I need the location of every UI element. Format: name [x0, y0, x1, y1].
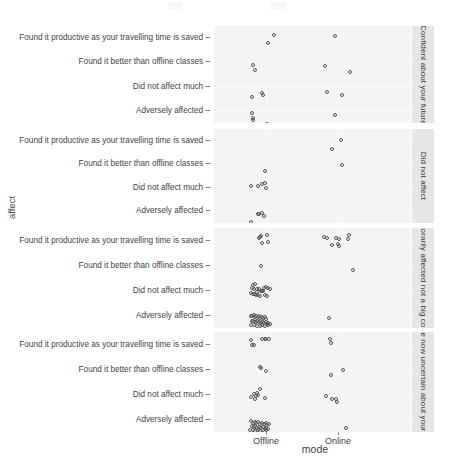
x-tick-mark-offline: [266, 432, 267, 435]
data-point: [249, 338, 253, 342]
data-point: [266, 323, 270, 327]
data-point: [351, 268, 355, 272]
y-tick-label-group: Found it productive as your travelling t…: [5, 129, 210, 223]
gridline-horizontal: [214, 87, 411, 88]
data-point: [348, 70, 352, 74]
data-point: [261, 93, 265, 97]
gridline-vertical: [338, 26, 339, 123]
data-point: [264, 369, 268, 373]
data-point: [250, 111, 254, 115]
data-point: [249, 220, 253, 223]
y-tick-label: Did not affect much –: [10, 390, 210, 399]
facet-panel: [214, 26, 411, 123]
gridline-horizontal: [214, 395, 411, 396]
y-tick-label: Did not affect much –: [10, 183, 210, 192]
y-tick-label: Found it productive as your travelling t…: [10, 340, 210, 349]
facet-strip-label: Did not affect: [412, 129, 434, 223]
data-point: [333, 113, 337, 117]
gridline-vertical: [338, 129, 339, 223]
y-tick-label: Found it better than offline classes –: [10, 261, 210, 270]
y-tick-label: Adversely affected –: [10, 311, 210, 320]
data-point: [259, 366, 263, 370]
data-point: [250, 95, 254, 99]
gridline-vertical: [266, 332, 267, 432]
title-remnant: [168, 2, 182, 9]
data-point: [325, 90, 329, 94]
y-tick-label: Found it productive as your travelling t…: [10, 136, 210, 145]
data-point: [253, 397, 257, 401]
y-tick-label-group: Found it productive as your travelling t…: [5, 228, 210, 328]
data-point: [272, 33, 276, 37]
gridline-horizontal: [214, 211, 411, 212]
data-point: [263, 169, 267, 173]
facet-strip-text: Did not affect: [419, 152, 428, 200]
y-tick-label: Found it better than offline classes –: [10, 159, 210, 168]
facet-panel: [214, 228, 411, 328]
gridline-horizontal: [214, 188, 411, 189]
data-point: [340, 93, 344, 97]
y-tick-label: Adversely affected –: [10, 206, 210, 215]
data-point: [330, 243, 334, 247]
gridline-horizontal: [214, 141, 411, 142]
plot-area: [214, 26, 411, 123]
data-point: [341, 368, 345, 372]
data-point: [253, 68, 257, 72]
data-point: [256, 393, 260, 397]
data-point: [252, 343, 256, 347]
y-tick-label-group: Found it productive as your travelling t…: [5, 26, 210, 123]
title-remnant: [270, 2, 286, 9]
y-tick-label-group: Found it productive as your travelling t…: [5, 332, 210, 432]
data-point: [266, 41, 270, 45]
gridline-horizontal: [214, 62, 411, 63]
gridline-horizontal: [214, 316, 411, 317]
data-point: [259, 234, 263, 238]
facet-panel: [214, 129, 411, 223]
facet-strip-text: Confident about your future: [419, 26, 428, 123]
y-tick-label: Did not affect much –: [10, 82, 210, 91]
gridline-horizontal: [214, 164, 411, 165]
facet-panel: [214, 332, 411, 432]
data-point: [260, 241, 264, 245]
y-tick-label: Adversely affected –: [10, 106, 210, 115]
facet-scatter-chart: affect mode Found it productive as your …: [0, 0, 449, 465]
facet-strip-label: Confident about your future: [412, 26, 434, 123]
data-point: [265, 122, 269, 123]
data-point: [251, 118, 255, 122]
data-point: [335, 400, 339, 404]
data-point: [344, 426, 348, 430]
facet-strip-text: orarily affected not a big co: [419, 229, 428, 328]
data-point: [253, 282, 257, 286]
plot-area: [214, 228, 411, 328]
x-tick-label-offline: Offline: [231, 436, 301, 446]
gridline-vertical: [266, 129, 267, 223]
y-tick-label: Adversely affected –: [10, 415, 210, 424]
plot-area: [214, 129, 411, 223]
data-point: [267, 422, 271, 426]
data-point: [259, 264, 263, 268]
data-point: [249, 184, 253, 188]
facet-strip-label: e now uncertain about your: [412, 332, 434, 432]
y-tick-label: Found it productive as your travelling t…: [10, 236, 210, 245]
data-point: [330, 147, 334, 151]
gridline-horizontal: [214, 420, 411, 421]
data-point: [325, 236, 329, 240]
data-point: [265, 233, 269, 237]
gridline-horizontal: [214, 111, 411, 112]
y-tick-label: Found it better than offline classes –: [10, 57, 210, 66]
data-point: [266, 240, 270, 244]
data-point: [324, 394, 328, 398]
gridline-horizontal: [214, 291, 411, 292]
data-point: [329, 373, 333, 377]
data-point: [265, 294, 269, 298]
data-point: [337, 244, 341, 248]
y-tick-label: Found it productive as your travelling t…: [10, 33, 210, 42]
y-tick-label: Found it better than offline classes –: [10, 365, 210, 374]
x-tick-label-online: Online: [303, 436, 373, 446]
gridline-vertical: [338, 332, 339, 432]
y-tick-label: Did not affect much –: [10, 286, 210, 295]
data-point: [258, 294, 262, 298]
data-point: [327, 316, 331, 320]
plot-area: [214, 332, 411, 432]
gridline-horizontal: [214, 266, 411, 267]
facet-strip-label: orarily affected not a big co: [412, 228, 434, 328]
